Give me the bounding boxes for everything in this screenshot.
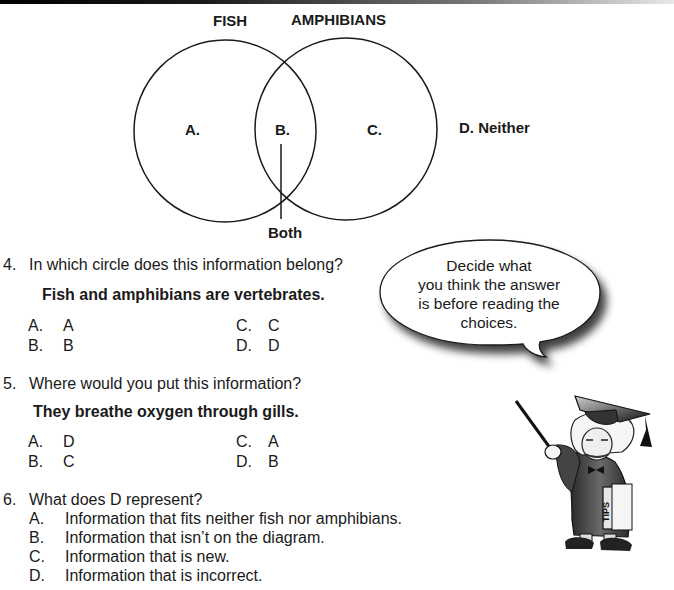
tassel — [640, 416, 652, 447]
book-label: TIPS — [601, 502, 611, 522]
professor-mascot-icon: TIPS — [0, 0, 674, 590]
